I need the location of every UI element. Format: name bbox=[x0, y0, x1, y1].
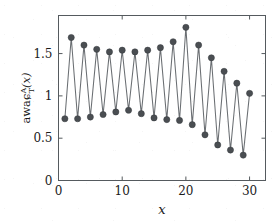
data-point-marker[interactable] bbox=[183, 24, 189, 30]
x-tick-label: 20 bbox=[178, 184, 193, 198]
data-point-marker[interactable] bbox=[189, 122, 195, 128]
y-tick-label: 0.5 bbox=[33, 131, 52, 145]
data-point-marker[interactable] bbox=[68, 34, 74, 40]
y-axis-title: awaɕAT(x) bbox=[19, 72, 36, 123]
data-point-marker[interactable] bbox=[246, 90, 252, 96]
data-point-marker[interactable] bbox=[75, 116, 81, 122]
data-point-marker[interactable] bbox=[157, 45, 163, 51]
x-tick-label: 0 bbox=[55, 184, 63, 198]
data-point-marker[interactable] bbox=[138, 111, 144, 117]
data-point-marker[interactable] bbox=[164, 116, 170, 122]
data-point-marker[interactable] bbox=[202, 132, 208, 138]
data-point-marker[interactable] bbox=[234, 80, 240, 86]
data-point-marker[interactable] bbox=[240, 152, 246, 158]
x-tick-label: 30 bbox=[242, 184, 257, 198]
data-point-marker[interactable] bbox=[94, 46, 100, 52]
data-series-line bbox=[65, 27, 250, 155]
data-point-marker[interactable] bbox=[145, 47, 151, 53]
x-axis-title: x bbox=[158, 202, 166, 217]
data-point-marker[interactable] bbox=[208, 55, 214, 61]
data-point-marker[interactable] bbox=[221, 68, 227, 74]
plot-frame bbox=[59, 16, 266, 181]
data-point-marker[interactable] bbox=[87, 114, 93, 120]
oscillating-line-chart: 010203000.511.5xawaɕAT(x) bbox=[0, 0, 279, 224]
data-point-marker[interactable] bbox=[170, 39, 176, 45]
data-point-marker[interactable] bbox=[113, 109, 119, 115]
data-point-marker[interactable] bbox=[227, 147, 233, 153]
data-point-marker[interactable] bbox=[215, 142, 221, 148]
y-tick-label: 0 bbox=[45, 174, 53, 188]
y-axis-title-text: awaɕAT(x) bbox=[19, 72, 36, 123]
y-tick-label: 1 bbox=[45, 89, 53, 103]
data-point-marker[interactable] bbox=[119, 47, 125, 53]
data-point-marker[interactable] bbox=[125, 107, 131, 113]
data-point-marker[interactable] bbox=[176, 117, 182, 123]
x-tick-label: 10 bbox=[115, 184, 130, 198]
data-point-marker[interactable] bbox=[196, 42, 202, 48]
data-point-marker[interactable] bbox=[100, 111, 106, 117]
data-point-marker[interactable] bbox=[62, 116, 68, 122]
y-tick-label: 1.5 bbox=[33, 47, 52, 61]
data-point-marker[interactable] bbox=[132, 49, 138, 55]
data-point-marker[interactable] bbox=[81, 42, 87, 48]
data-point-marker[interactable] bbox=[151, 115, 157, 121]
data-point-marker[interactable] bbox=[106, 49, 112, 55]
chart-figure: 010203000.511.5xawaɕAT(x) bbox=[0, 0, 279, 224]
